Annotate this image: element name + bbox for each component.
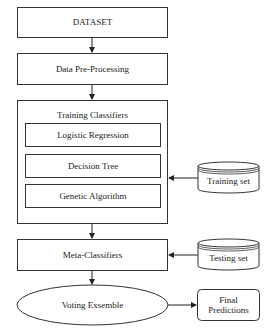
dataset-node: DATASET — [17, 7, 168, 38]
final-predictions-line2: Predictions — [208, 305, 249, 315]
training-classifiers-title: Training Classifiers — [18, 110, 167, 120]
final-predictions-node: Final Predictions — [197, 290, 260, 320]
logistic-regression-label: Logistic Regression — [57, 130, 129, 140]
voting-exsemble-label: Voting Exsemble — [17, 296, 168, 314]
meta-classifiers-node: Meta-Classifiers — [17, 239, 168, 271]
decision-tree-node: Decision Tree — [25, 154, 161, 178]
logistic-regression-node: Logistic Regression — [25, 123, 161, 147]
training-set-label: Training set — [198, 172, 259, 190]
meta-classifiers-label: Meta-Classifiers — [63, 250, 122, 260]
preprocessing-label: Data Pre-Processing — [56, 64, 129, 74]
genetic-algorithm-label: Genetic Algorithm — [59, 191, 126, 201]
decision-tree-label: Decision Tree — [68, 161, 118, 171]
testing-set-label: Testing set — [198, 249, 259, 267]
preprocessing-node: Data Pre-Processing — [17, 53, 168, 85]
genetic-algorithm-node: Genetic Algorithm — [25, 184, 161, 208]
dataset-label: DATASET — [73, 17, 112, 27]
final-predictions-line1: Final — [219, 295, 238, 305]
